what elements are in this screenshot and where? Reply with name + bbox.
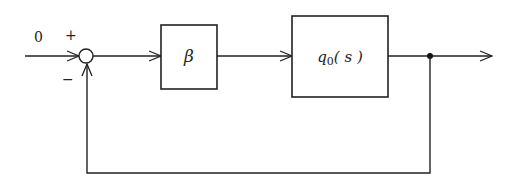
minus-sign: − <box>62 71 74 87</box>
plus-sign: + <box>65 27 77 43</box>
input-label: 0 <box>34 29 43 45</box>
summing-junction <box>79 49 93 63</box>
beta-label: β <box>183 46 194 66</box>
block-diagram: 0 + − β q0( s ) <box>0 0 510 196</box>
plant-label: q0( s ) <box>317 48 363 68</box>
